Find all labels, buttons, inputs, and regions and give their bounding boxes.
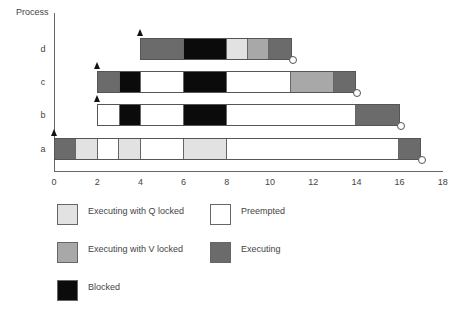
legend-swatch xyxy=(210,242,231,263)
segment-blocked xyxy=(184,39,227,59)
completion-circle-icon xyxy=(397,122,405,130)
segment-blocked xyxy=(184,72,227,92)
arrival-arrow-icon xyxy=(94,95,100,102)
segment-executing-q-locked xyxy=(227,39,248,59)
arrival-arrow-icon xyxy=(51,129,57,136)
legend-item-executing-v-locked: Executing with V locked xyxy=(57,242,183,263)
process-label-a: a xyxy=(38,144,48,154)
process-label-d: d xyxy=(38,44,48,54)
legend-label: Executing xyxy=(241,244,281,254)
legend-item-preempted: Preempted xyxy=(210,204,285,225)
segment-preempted xyxy=(98,139,119,159)
legend-label: Preempted xyxy=(241,206,285,216)
completion-circle-icon xyxy=(353,89,361,97)
completion-circle-icon xyxy=(289,56,297,64)
segment-executing-q-locked xyxy=(184,139,227,159)
segment-executing xyxy=(399,139,420,159)
process-label-b: b xyxy=(38,110,48,120)
process-bar-c xyxy=(97,71,356,93)
x-tick-label: 10 xyxy=(260,177,280,187)
segment-preempted xyxy=(141,105,184,125)
x-tick-label: 6 xyxy=(174,177,194,187)
segment-preempted xyxy=(98,105,119,125)
x-tick-label: 8 xyxy=(217,177,237,187)
legend-item-executing: Executing xyxy=(210,242,281,263)
segment-executing-v-locked xyxy=(291,72,334,92)
segment-preempted xyxy=(141,139,184,159)
process-bar-d xyxy=(140,38,291,60)
legend-swatch xyxy=(210,204,231,225)
legend-item-blocked: Blocked xyxy=(57,280,120,301)
segment-executing-q-locked xyxy=(76,139,97,159)
segment-preempted xyxy=(227,139,399,159)
legend-swatch xyxy=(57,204,78,225)
segment-executing xyxy=(98,72,119,92)
process-bar-b xyxy=(97,104,399,126)
legend-label: Executing with Q locked xyxy=(88,206,184,216)
segment-executing xyxy=(269,39,290,59)
segment-blocked xyxy=(120,105,141,125)
legend-swatch xyxy=(57,280,78,301)
segment-executing xyxy=(141,39,184,59)
process-bar-a xyxy=(54,138,421,160)
legend-swatch xyxy=(57,242,78,263)
arrival-arrow-icon xyxy=(94,62,100,69)
x-tick-label: 4 xyxy=(130,177,150,187)
arrival-arrow-icon xyxy=(137,29,143,36)
legend-label: Executing with V locked xyxy=(88,244,183,254)
x-tick-label: 0 xyxy=(44,177,64,187)
x-tick-label: 14 xyxy=(346,177,366,187)
legend-label: Blocked xyxy=(88,282,120,292)
x-tick-label: 18 xyxy=(433,177,453,187)
segment-preempted xyxy=(227,105,356,125)
x-axis-line xyxy=(54,171,443,172)
segment-executing-v-locked xyxy=(248,39,269,59)
y-axis-label: Process xyxy=(16,7,49,17)
segment-executing-q-locked xyxy=(119,139,140,159)
x-tick-label: 16 xyxy=(390,177,410,187)
segment-preempted xyxy=(141,72,184,92)
process-label-c: c xyxy=(38,77,48,87)
completion-circle-icon xyxy=(418,156,426,164)
segment-blocked xyxy=(120,72,141,92)
x-tick-label: 12 xyxy=(303,177,323,187)
legend-item-executing-q-locked: Executing with Q locked xyxy=(57,204,184,225)
segment-preempted xyxy=(227,72,291,92)
segment-executing xyxy=(356,105,399,125)
segment-executing xyxy=(334,72,355,92)
segment-blocked xyxy=(184,105,227,125)
segment-executing xyxy=(55,139,76,159)
x-tick-label: 2 xyxy=(87,177,107,187)
